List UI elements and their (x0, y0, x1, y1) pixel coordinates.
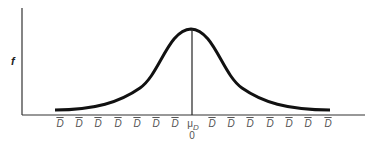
y-axis-label: f (11, 55, 15, 67)
tick-label: D (262, 118, 278, 129)
tick-label: D (52, 118, 68, 129)
tick-label: D (242, 118, 258, 129)
tick-label: D (90, 118, 106, 129)
tick-label: D (129, 118, 145, 129)
tick-label: D (204, 118, 220, 129)
tick-label: D (300, 118, 316, 129)
tick-label: D (71, 118, 87, 129)
tick-label: D (281, 118, 297, 129)
mean-value: 0 (186, 130, 198, 141)
tick-label: D (320, 118, 336, 129)
tick-label: D (167, 118, 183, 129)
tick-label: D (110, 118, 126, 129)
tick-label: D (223, 118, 239, 129)
tick-label: D (148, 118, 164, 129)
